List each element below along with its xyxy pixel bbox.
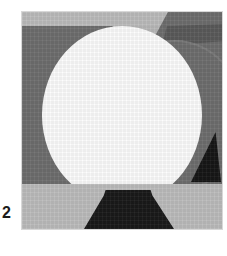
quantized-image-tile xyxy=(22,12,222,229)
region-white-sphere xyxy=(42,26,202,204)
panel-index-label: 2 xyxy=(2,203,18,223)
figure-root: 2 xyxy=(0,0,227,256)
